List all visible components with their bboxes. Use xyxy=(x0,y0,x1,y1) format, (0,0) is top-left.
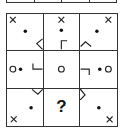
corner-bracket-icon xyxy=(81,69,90,75)
circle-icon xyxy=(106,67,112,73)
strip-segment xyxy=(62,0,90,2)
cell-r1c1 xyxy=(7,14,44,51)
cell-r3c1 xyxy=(7,89,44,126)
puzzle-grid: ? xyxy=(6,13,118,127)
cross-icon xyxy=(107,116,113,122)
cross-icon xyxy=(10,17,16,23)
dot-icon xyxy=(98,68,101,71)
dot-icon xyxy=(29,106,32,109)
dot-icon xyxy=(97,106,101,110)
circle-icon xyxy=(58,67,64,73)
cell-r1c3 xyxy=(80,14,117,51)
cell-r1c2 xyxy=(44,14,81,51)
corner-bracket-icon xyxy=(33,64,43,70)
cell-r3c2-missing: ? xyxy=(44,89,81,126)
chevron-left-icon xyxy=(37,39,43,50)
cell-r2c1 xyxy=(7,51,44,88)
chevron-up-icon xyxy=(81,42,92,47)
cross-icon xyxy=(58,17,64,23)
previous-row-strip xyxy=(6,0,117,3)
question-mark: ? xyxy=(44,97,80,117)
chevron-down-icon xyxy=(32,89,43,94)
circle-icon xyxy=(10,67,16,73)
dot-icon xyxy=(59,29,62,32)
cross-icon xyxy=(106,17,112,23)
chevron-right-icon xyxy=(80,89,85,100)
strip-segment xyxy=(35,0,63,2)
dot-icon xyxy=(96,29,99,32)
cell-r2c3 xyxy=(80,51,117,88)
cell-r2c2 xyxy=(44,51,81,88)
cross-icon xyxy=(11,116,17,122)
corner-bracket-icon xyxy=(61,41,67,50)
strip-segment xyxy=(90,0,117,2)
cell-r3c3 xyxy=(80,89,117,126)
dot-icon xyxy=(24,29,27,32)
dot-icon xyxy=(19,68,22,71)
strip-segment xyxy=(7,0,35,2)
